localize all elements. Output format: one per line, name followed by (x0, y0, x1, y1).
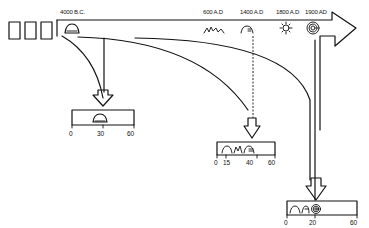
arrowhead-3 (306, 178, 326, 200)
wave-icon (204, 27, 224, 33)
scale-box-3: 0 20 60 (284, 201, 358, 226)
block-2 (25, 22, 36, 39)
scale-1-tick-0: 0 (69, 130, 73, 137)
timeline-label-1900ad: 1900 AD (305, 9, 327, 15)
arch-icon (241, 26, 253, 33)
scale-2-tick-0: 0 (214, 159, 218, 166)
timeline-label-600ad: 600 A.D (203, 9, 224, 15)
spiral-icon (307, 22, 319, 34)
scale-1-tick-30: 30 (97, 130, 105, 137)
scale-3-tick-0: 0 (284, 219, 288, 226)
diagram-canvas: 4000 B.C. 600 A.D 1400 A.D 1800 A.D 1900… (0, 0, 369, 228)
scale-2-tick-15: 15 (223, 159, 231, 166)
scale-box-1: 0 30 60 (69, 110, 135, 137)
dome-icon (65, 24, 79, 33)
curve-arrow-1 (62, 36, 103, 98)
timeline-label-1800ad: 1800 A.D (276, 9, 300, 15)
scale-3-tick-20: 20 (309, 219, 317, 226)
block-1 (9, 22, 20, 39)
timeline-label-1400ad: 1400 A.D (240, 9, 264, 15)
block-3 (41, 22, 52, 39)
scale-box-2: 0 15 40 60 (214, 142, 276, 166)
scale-3-tick-60: 60 (350, 219, 358, 226)
scale-2-tick-60: 60 (268, 159, 276, 166)
timeline-label-4000bc: 4000 B.C. (60, 9, 85, 15)
scale-1-tick-60: 60 (127, 130, 135, 137)
arrowhead-2 (244, 118, 260, 138)
origin-blocks (9, 22, 52, 39)
sun-burst-icon (280, 22, 292, 34)
scale-2-tick-40: 40 (246, 159, 254, 166)
